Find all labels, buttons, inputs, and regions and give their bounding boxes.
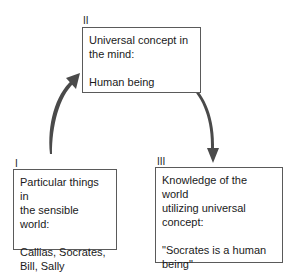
- numeral-iii: III: [157, 157, 165, 167]
- node-i-heading-line-1: Particular things in: [20, 175, 110, 203]
- numeral-i: I: [15, 159, 18, 169]
- node-ii-universal-concept: Universal concept in the mind: Human bei…: [82, 27, 201, 93]
- node-ii-heading-line-1: Universal concept in: [89, 33, 194, 47]
- node-iii-heading-line-2: utilizing universal: [162, 201, 276, 215]
- node-i-content-line-2: Bill, Sally: [20, 259, 110, 273]
- arrow-i-to-ii: [49, 80, 74, 154]
- node-ii-content-line-1: Human being: [89, 75, 194, 89]
- numeral-ii: II: [83, 16, 89, 26]
- node-i-heading-line-2: the sensible world:: [20, 203, 110, 231]
- node-iii-heading-line-3: concept:: [162, 215, 276, 229]
- arrow-head-ii-to-iii: [207, 148, 219, 163]
- node-iii-knowledge: Knowledge of the world utilizing univers…: [155, 167, 283, 263]
- node-ii-heading-line-2: the mind:: [89, 47, 194, 61]
- node-iii-content-line-1: "Socrates is a human: [162, 243, 276, 257]
- node-iii-heading-line-1: Knowledge of the world: [162, 173, 276, 201]
- node-i-content-line-1: Callias, Socrates,: [20, 245, 110, 259]
- node-i-particular-things: Particular things in the sensible world:…: [13, 169, 117, 250]
- node-iii-content-line-2: being": [162, 257, 276, 271]
- arrow-ii-to-iii: [189, 83, 214, 150]
